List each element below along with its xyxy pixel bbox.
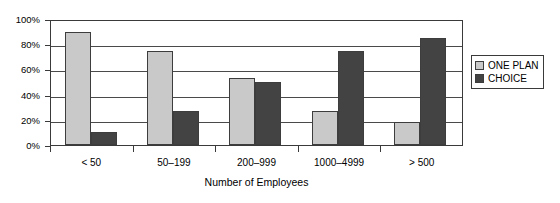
bar-group [215,21,297,145]
legend-swatch-icon [475,74,484,83]
bar-choice [173,111,199,145]
x-axis-tick-label: < 50 [50,157,133,169]
x-axis-tick-label: > 500 [380,157,463,169]
x-axis-tick-label: 50–199 [133,157,216,169]
legend-item: ONE PLAN [475,59,539,72]
y-tick-mark [45,45,50,46]
x-tick-mark [298,146,299,152]
y-tick-label: 100% [16,15,40,25]
bar-group [133,21,215,145]
x-axis-tick-label: 200–999 [215,157,298,169]
plot-area [50,20,463,146]
y-tick-label: 0% [26,141,40,151]
x-tick-mark [380,146,381,152]
bar-choice [255,82,281,145]
bar-one-plan [394,122,420,145]
chart-legend: ONE PLANCHOICE [471,55,544,89]
y-tick-label: 40% [21,91,40,101]
x-tick-mark [133,146,134,152]
legend-item: CHOICE [475,72,539,85]
y-tick-label: 60% [21,65,40,75]
y-tick-label: 80% [21,40,40,50]
bar-one-plan [147,51,173,146]
bar-group [51,21,133,145]
bar-group [380,21,462,145]
bar-one-plan [65,32,91,145]
x-axis-tick-label: 1000–4999 [298,157,381,169]
bar-chart: 100%80%60%40%20%0% < 5050–199200–9991000… [0,0,560,203]
x-tick-mark [215,146,216,152]
x-axis-title: Number of Employees [50,176,463,189]
y-tick-label: 20% [21,116,40,126]
bar-one-plan [229,78,255,145]
legend-swatch-icon [475,61,484,70]
y-tick-mark [45,96,50,97]
x-tick-mark [50,146,51,152]
y-tick-mark [45,20,50,21]
bar-groups [51,21,462,145]
legend-label: ONE PLAN [488,60,539,71]
legend-label: CHOICE [488,73,527,84]
bar-choice [91,132,117,145]
bar-choice [420,38,446,145]
bar-choice [338,51,364,146]
y-tick-mark [45,70,50,71]
bar-one-plan [312,111,338,145]
y-axis: 100%80%60%40%20%0% [0,0,46,203]
y-tick-mark [45,121,50,122]
x-axis-category-labels: < 5050–199200–9991000–4999> 500 [50,157,463,169]
bar-group [298,21,380,145]
